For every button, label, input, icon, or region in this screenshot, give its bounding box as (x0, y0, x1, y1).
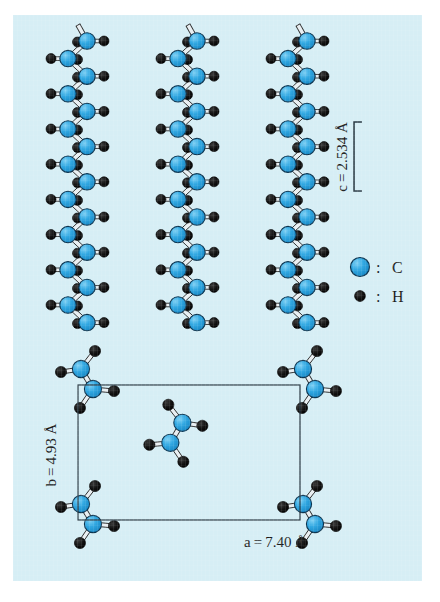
carbon-atom (280, 226, 296, 242)
carbon-atom (299, 68, 315, 84)
hydrogen-atom (266, 265, 276, 275)
carbon-atom (299, 209, 315, 225)
c-axis-label: c = 2.534 Å (334, 122, 350, 192)
hydrogen-atom (144, 439, 155, 450)
carbon-atom (170, 121, 186, 137)
carbon-atom (189, 68, 205, 84)
hydrogen-atom (89, 345, 100, 356)
chain-projection-unit (144, 399, 208, 467)
hydrogen-atom (55, 366, 66, 377)
carbon-atom (189, 33, 205, 49)
carbon-atom (294, 360, 311, 377)
carbon-atom (60, 156, 76, 172)
hydrogen-atom (266, 230, 276, 240)
hydrogen-atom (209, 106, 219, 116)
carbon-atom (189, 314, 205, 330)
legend-hydrogen-separator: : (376, 288, 380, 305)
a-axis-label: a = 7.40 Å (244, 534, 306, 550)
hydrogen-atom (266, 124, 276, 134)
hydrogen-atom (197, 420, 208, 431)
hydrogen-atom (99, 177, 109, 187)
carbon-atom (79, 68, 95, 84)
carbon-atom (79, 138, 95, 154)
hydrogen-atom (266, 89, 276, 99)
projection-bonds (283, 350, 336, 409)
figure-root: c = 2.534 Å : C : H a = 7.40 Å b = 4.93 … (0, 0, 440, 602)
carbon-atom (60, 297, 76, 313)
carbon-atom (189, 138, 205, 154)
hydrogen-atom (156, 124, 166, 134)
hydrogen-atom (99, 142, 109, 152)
carbon-atom (60, 226, 76, 242)
hydrogen-atom (319, 106, 329, 116)
carbon-atom (162, 434, 179, 451)
hydrogen-atom (277, 501, 288, 512)
hydrogen-atom (266, 194, 276, 204)
hydrogen-atom (156, 265, 166, 275)
polyethylene-chain (46, 24, 109, 331)
hydrogen-atom (55, 501, 66, 512)
hydrogen-atom (46, 194, 56, 204)
carbon-atom (280, 297, 296, 313)
carbon-atom (280, 50, 296, 66)
carbon-atom (280, 121, 296, 137)
hydrogen-group (266, 36, 329, 329)
hydrogen-atom (319, 142, 329, 152)
b-axis-label: b = 4.93 Å (43, 423, 59, 486)
hydrogen-atom (266, 300, 276, 310)
carbon-atom (174, 414, 191, 431)
hydrogen-group (46, 36, 109, 329)
hydrogen-atom (311, 480, 322, 491)
unit-cell-projection-group (55, 345, 341, 548)
hydrogen-atom (99, 212, 109, 222)
polyethylene-chain (156, 24, 219, 331)
hydrogen-atom (266, 159, 276, 169)
carbon-atom (294, 495, 311, 512)
hydrogen-atom (108, 385, 119, 396)
hydrogen-atom (99, 106, 109, 116)
carbon-atom (280, 156, 296, 172)
hydrogen-atom (319, 247, 329, 257)
carbon-atom (299, 279, 315, 295)
hydrogen-atom (330, 385, 341, 396)
carbon-atom (189, 244, 205, 260)
projection-bonds (61, 485, 114, 544)
unit-cell-rectangle (78, 385, 300, 520)
chain-side-view-group (46, 24, 329, 331)
hydrogen-atom (277, 366, 288, 377)
hydrogen-atom (108, 520, 119, 531)
hydrogen-atom (319, 318, 329, 328)
carbon-atom (306, 515, 323, 532)
chain-projection-unit (55, 345, 119, 413)
figure-panel: c = 2.534 Å : C : H a = 7.40 Å b = 4.93 … (13, 15, 422, 581)
hydrogen-atom (156, 300, 166, 310)
hydrogen-atom (156, 194, 166, 204)
carbon-atom (299, 138, 315, 154)
hydrogen-atom (46, 265, 56, 275)
carbon-atom (170, 156, 186, 172)
hydrogen-atom (46, 124, 56, 134)
carbon-atom (60, 262, 76, 278)
hydrogen-atom (209, 318, 219, 328)
chain-projection-unit (55, 480, 119, 548)
carbon-atom (170, 50, 186, 66)
carbon-atom (170, 191, 186, 207)
hydrogen-atom (99, 36, 109, 46)
hydrogen-atom (266, 54, 276, 64)
hydrogen-atom (46, 300, 56, 310)
carbon-atom (170, 297, 186, 313)
hydrogen-atom (209, 36, 219, 46)
hydrogen-atom (319, 282, 329, 292)
legend-hydrogen-label: H (392, 288, 404, 305)
carbon-atom (189, 103, 205, 119)
hydrogen-atom (156, 54, 166, 64)
hydrogen-atom (319, 212, 329, 222)
hydrogen-atom (319, 36, 329, 46)
hydrogen-atom (46, 230, 56, 240)
chain-projection-unit (277, 345, 341, 413)
polyethylene-chain (266, 24, 329, 331)
hydrogen-atom (311, 345, 322, 356)
projection-bonds (61, 350, 114, 409)
carbon-atom (84, 515, 101, 532)
hydrogen-atom (163, 399, 174, 410)
